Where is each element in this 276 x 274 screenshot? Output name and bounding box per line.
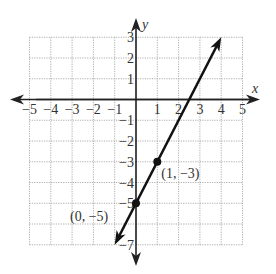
point-marker bbox=[153, 158, 161, 166]
point-label: (0, −5) bbox=[70, 209, 109, 225]
x-tick-label: 3 bbox=[196, 102, 203, 117]
y-tick-label: 1 bbox=[127, 72, 134, 87]
y-tick-label: 2 bbox=[127, 51, 134, 66]
y-tick-label: −1 bbox=[119, 113, 134, 128]
y-axis-label: y bbox=[140, 17, 149, 32]
x-tick-label: 5 bbox=[239, 102, 246, 117]
x-tick-label: 4 bbox=[218, 102, 225, 117]
x-tick-label: −3 bbox=[65, 102, 80, 117]
x-tick-label: −4 bbox=[43, 102, 58, 117]
y-tick-label: −2 bbox=[119, 134, 134, 149]
x-tick-label: 1 bbox=[154, 102, 161, 117]
y-tick-label: 3 bbox=[127, 30, 134, 45]
point-label: (1, −3) bbox=[161, 166, 200, 182]
x-tick-label: −5 bbox=[22, 102, 37, 117]
y-tick-label: −4 bbox=[119, 176, 134, 191]
point-marker bbox=[132, 199, 140, 207]
x-tick-label: −2 bbox=[86, 102, 101, 117]
coordinate-plane: yx−5−4−3−2−112345321−1−2−3−4−5−7(1, −3)(… bbox=[0, 0, 276, 274]
x-axis-label: x bbox=[251, 81, 259, 96]
y-tick-label: −7 bbox=[119, 238, 134, 253]
y-tick-label: −3 bbox=[119, 155, 134, 170]
